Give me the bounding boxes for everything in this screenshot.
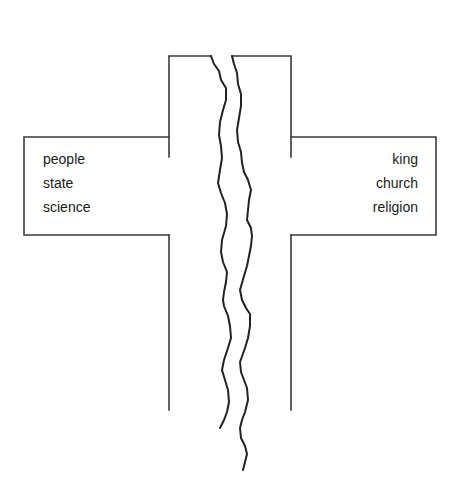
- right-cross-half: [232, 56, 436, 410]
- left-top-edge: [169, 56, 211, 157]
- left-arm-labels: people state science: [43, 151, 91, 215]
- left-cross-half: [24, 56, 211, 410]
- label-people: people: [43, 151, 85, 167]
- label-king: king: [392, 151, 418, 167]
- label-state: state: [43, 175, 74, 191]
- label-religion: religion: [373, 199, 418, 215]
- right-arm-labels: king church religion: [373, 151, 418, 215]
- split-cross-diagram: people state science king church religio…: [0, 0, 459, 488]
- label-science: science: [43, 199, 91, 215]
- right-crack-line: [232, 56, 252, 470]
- left-crack-line: [211, 56, 231, 428]
- label-church: church: [376, 175, 418, 191]
